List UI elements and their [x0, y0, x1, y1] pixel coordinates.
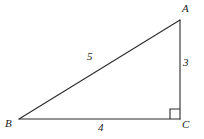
vertex-label-b: B	[5, 118, 12, 129]
side-length-label-ab: 5	[87, 51, 93, 62]
triangle-drawing	[0, 0, 204, 139]
side-length-label-bc: 4	[98, 122, 104, 133]
vertex-label-a: A	[182, 3, 189, 14]
right-angle-marker-icon	[170, 109, 180, 119]
geometry-figure: A B C 5 3 4	[0, 0, 204, 139]
side-length-label-ac: 3	[183, 57, 189, 68]
vertex-label-c: C	[182, 119, 189, 130]
side-ab-line	[19, 20, 180, 119]
